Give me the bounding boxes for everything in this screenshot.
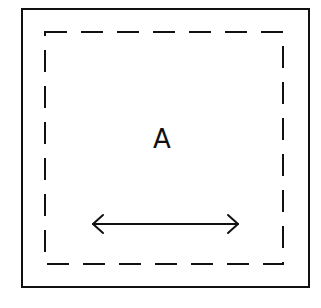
- region-label: A: [153, 124, 171, 154]
- diagram-canvas: A: [0, 0, 321, 308]
- double-arrow-icon: [93, 215, 238, 233]
